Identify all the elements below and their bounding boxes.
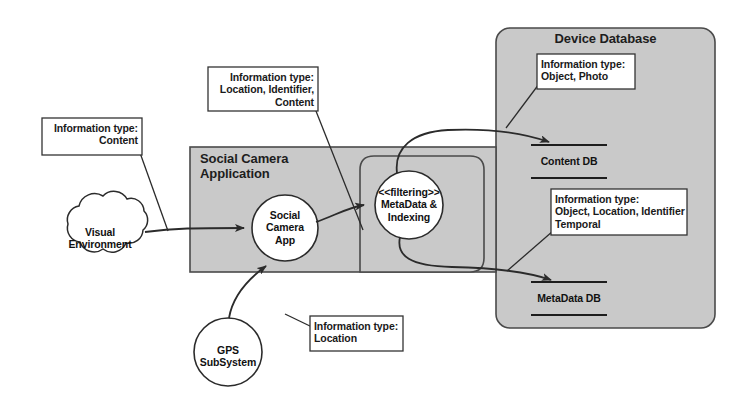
note-label-content: Information type: Content	[46, 122, 138, 147]
datastore-label-content-db: Content DB	[531, 155, 607, 167]
leader-note-location	[285, 314, 312, 327]
note-label-location: Information type: Location	[314, 320, 402, 345]
node-label-gps-subsystem: GPS SubSystem	[188, 344, 268, 369]
node-label-social-camera-app: Social Camera App	[245, 209, 325, 246]
note-label-object-location-identifier-temporal: Information type: Object, Location, Iden…	[555, 193, 687, 230]
datastore-label-metadata-db: MetaData DB	[529, 292, 609, 304]
note-label-object-photo: Information type: Object, Photo	[541, 58, 635, 83]
node-label-visual-environment: Visual Environment	[60, 226, 140, 251]
data-flow-diagram: Social Camera Application Device Databas…	[0, 0, 751, 412]
node-label-metadata-indexing: <<filtering>> MetaData & Indexing	[367, 186, 451, 223]
container-title-social-camera-application: Social Camera Application	[200, 151, 380, 182]
flow-gps-to-app	[229, 266, 266, 318]
note-label-location-identifier-content: Information type: Location, Identifier, …	[211, 71, 314, 108]
container-title-device-database: Device Database	[496, 31, 715, 46]
